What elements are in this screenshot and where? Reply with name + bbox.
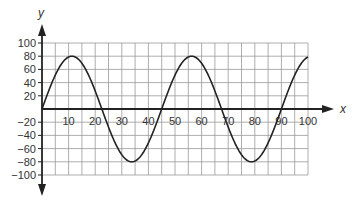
x-tick-label: 30 [116,115,128,127]
sine-chart: 10080604020−20−40−60−80−1001020304050607… [0,0,353,204]
y-tick-label: −100 [11,169,36,181]
x-tick-label: 20 [89,115,101,127]
x-axis-arrow-icon [322,105,334,113]
x-axis-label: x [339,102,347,116]
y-tick-label: 20 [24,90,36,102]
y-axis-label: y [37,6,45,20]
x-tick-label: 10 [62,115,74,127]
x-tick-label: 50 [169,115,181,127]
y-tick-label: −60 [17,143,36,155]
axes [38,24,334,196]
x-tick-label: 100 [299,115,317,127]
y-tick-label: 80 [24,50,36,62]
y-tick-label: −80 [17,156,36,168]
y-tick-label: 60 [24,63,36,75]
y-tick-label: −40 [17,129,36,141]
y-axis-arrow-up-icon [38,24,46,36]
y-axis-arrow-down-icon [38,184,46,196]
y-tick-label: 40 [24,77,36,89]
x-tick-label: 60 [195,115,207,127]
x-tick-label: 80 [249,115,261,127]
y-tick-label: 100 [18,37,36,49]
x-tick-label: 40 [142,115,154,127]
y-tick-label: −20 [17,116,36,128]
